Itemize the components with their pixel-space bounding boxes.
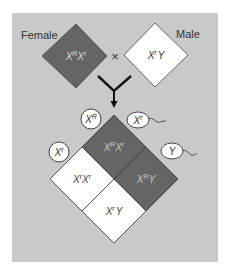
sperm-gamete-y: Y xyxy=(161,143,197,159)
punnett-diagram: Female Male XRXr × XrY XRXr XRY XrXr XrY… xyxy=(0,0,225,273)
combine-arrow-icon xyxy=(98,76,131,108)
cross-symbol: × xyxy=(111,49,119,64)
male-label: Male xyxy=(176,28,200,40)
egg-gamete-xR: XR xyxy=(81,109,101,129)
punnett-square: XRXr XRY XrXr XrY xyxy=(50,115,178,243)
sperm-gamete-xr: Xr xyxy=(127,112,166,128)
egg-gamete-xr: Xr xyxy=(49,142,69,162)
female-label: Female xyxy=(21,29,58,41)
sperm-tail-icon xyxy=(182,150,197,155)
sperm-tail-icon xyxy=(148,118,166,122)
